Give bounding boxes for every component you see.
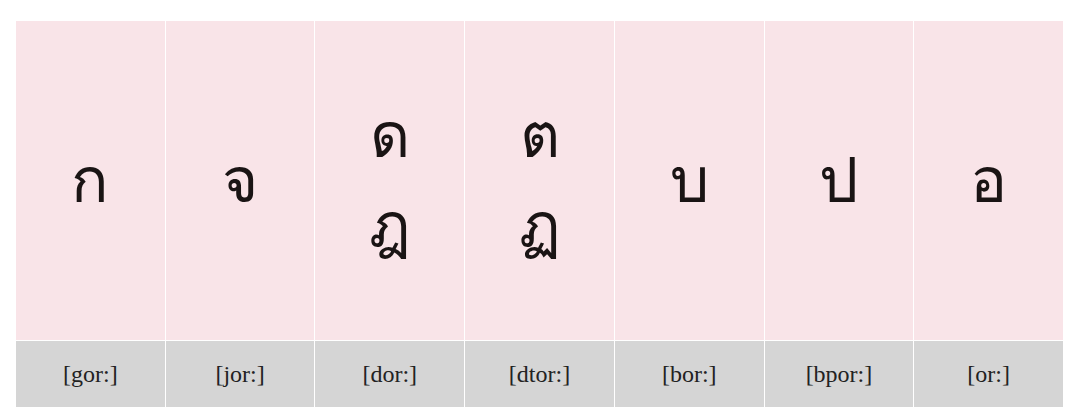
glyph-cell: ก bbox=[16, 21, 165, 341]
thai-glyph: อ bbox=[970, 150, 1007, 212]
thai-glyph: ต bbox=[520, 105, 560, 167]
romanization-label: [dor:] bbox=[315, 341, 464, 407]
thai-glyph: ด bbox=[370, 105, 410, 167]
glyph-cell: จ bbox=[166, 21, 315, 341]
column-bpor: ป [bpor:] bbox=[765, 21, 915, 407]
column-gor: ก [gor:] bbox=[16, 21, 166, 407]
column-jor: จ [jor:] bbox=[166, 21, 316, 407]
column-dor: ด ฎ [dor:] bbox=[315, 21, 465, 407]
romanization-label: [dtor:] bbox=[465, 341, 614, 407]
thai-glyph: ก bbox=[71, 150, 109, 212]
glyph-cell: บ bbox=[615, 21, 764, 341]
column-dtor: ต ฏ [dtor:] bbox=[465, 21, 615, 407]
romanization-label: [gor:] bbox=[16, 341, 165, 407]
thai-glyph-alt: ฏ bbox=[519, 195, 561, 257]
thai-glyph-alt: ฎ bbox=[369, 195, 411, 257]
romanization-label: [jor:] bbox=[166, 341, 315, 407]
thai-consonant-table: ก [gor:] จ [jor:] ด ฎ [dor:] ต ฏ [dtor:]… bbox=[16, 21, 1063, 407]
glyph-cell: ต ฏ bbox=[465, 21, 614, 341]
romanization-label: [bpor:] bbox=[765, 341, 914, 407]
column-or: อ [or:] bbox=[914, 21, 1063, 407]
romanization-label: [or:] bbox=[914, 341, 1063, 407]
romanization-label: [bor:] bbox=[615, 341, 764, 407]
thai-glyph: บ bbox=[670, 150, 709, 212]
glyph-cell: ด ฎ bbox=[315, 21, 464, 341]
column-bor: บ [bor:] bbox=[615, 21, 765, 407]
thai-glyph: จ bbox=[222, 150, 258, 212]
glyph-cell: อ bbox=[914, 21, 1063, 341]
glyph-cell: ป bbox=[765, 21, 914, 341]
thai-glyph: ป bbox=[819, 150, 858, 212]
